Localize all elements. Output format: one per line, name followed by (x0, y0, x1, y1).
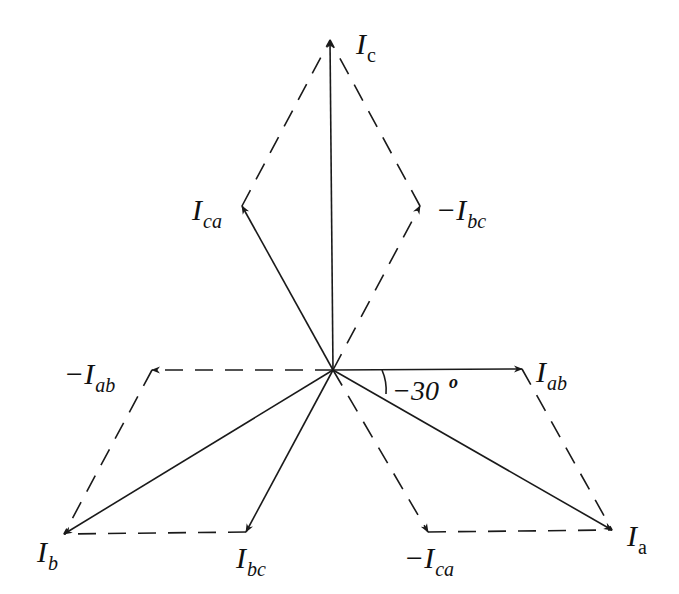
construction-line (64, 532, 246, 534)
label-iab: Iab (535, 355, 567, 394)
label-neg-ica: −Ica (404, 541, 454, 580)
angle-value: −30 (392, 375, 439, 406)
label-ica: Ica (191, 193, 222, 232)
label-neg-ibc: −Ibc (436, 193, 486, 232)
phasor-arrows (64, 40, 612, 534)
phasor-ica-arrow (242, 206, 333, 370)
phasor-neg-ibc-arrow (333, 206, 420, 370)
construction-line (242, 40, 330, 206)
label-ibc: Ibc (235, 541, 266, 580)
label-ia: Ia (626, 519, 647, 558)
phasor-ibc-arrow (246, 370, 333, 532)
phasor-ic-arrow (330, 40, 333, 370)
phasor-ia-arrow (333, 370, 612, 530)
angle-annotation: −30 o (382, 370, 458, 406)
label-ib: Ib (36, 535, 58, 574)
degree-symbol: o (449, 372, 458, 392)
label-ic: Ic (355, 27, 376, 66)
construction-lines (64, 40, 612, 534)
phasor-diagram: −30 o IcIca−IbcIab−IabIaIbIbc−Ica (0, 0, 679, 594)
phasor-iab-arrow (333, 369, 522, 370)
label-neg-iab: −Iab (64, 357, 115, 396)
angle-label: −30 o (392, 372, 458, 406)
angle-arc (382, 370, 386, 394)
construction-line (428, 530, 612, 532)
construction-line (522, 369, 612, 530)
